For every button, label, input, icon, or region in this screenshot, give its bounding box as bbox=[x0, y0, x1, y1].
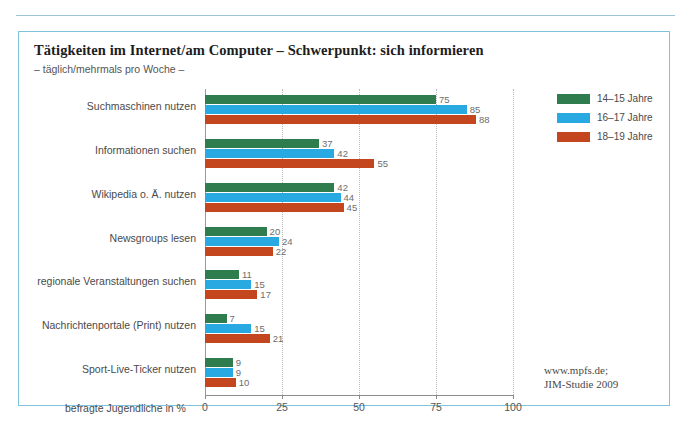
bar-group: Informationen suchen374255 bbox=[205, 139, 513, 168]
legend-label-16-17: 16–17 Jahre bbox=[597, 112, 653, 123]
category-label: Nachrichtenportale (Print) nutzen bbox=[42, 319, 196, 331]
bar-group: Suchmaschinen nutzen758588 bbox=[205, 95, 513, 124]
bar-value-label: 9 bbox=[236, 358, 241, 367]
bar bbox=[205, 280, 251, 289]
chart-legend: 14–15 Jahre 16–17 Jahre 18–19 Jahre bbox=[557, 91, 653, 148]
bar-value-label: 88 bbox=[479, 115, 490, 124]
x-tick-label-100: 100 bbox=[504, 401, 522, 413]
category-label: Newsgroups lesen bbox=[110, 232, 196, 244]
x-tick-75 bbox=[436, 395, 437, 399]
legend-label-18-19: 18–19 Jahre bbox=[597, 131, 653, 142]
source-line-2: JIM-Studie 2009 bbox=[544, 377, 618, 391]
bar-value-label: 55 bbox=[377, 159, 388, 168]
bar-group: Wikipedia o. Ä. nutzen424445 bbox=[205, 183, 513, 212]
x-tick-25 bbox=[282, 395, 283, 399]
source-note: www.mpfs.de; JIM-Studie 2009 bbox=[544, 363, 618, 391]
bar-group: Sport-Live-Ticker nutzen9910 bbox=[205, 358, 513, 387]
bar-value-label: 15 bbox=[254, 280, 265, 289]
chart-title: Tätigkeiten im Internet/am Computer – Sc… bbox=[34, 42, 484, 59]
bar-value-label: 75 bbox=[439, 95, 450, 104]
bar bbox=[205, 159, 374, 168]
bar-value-label: 45 bbox=[347, 203, 358, 212]
bar-group: Newsgroups lesen202422 bbox=[205, 227, 513, 256]
category-label: Wikipedia o. Ä. nutzen bbox=[92, 188, 196, 200]
x-tick-label-0: 0 bbox=[202, 401, 208, 413]
bar bbox=[205, 334, 270, 343]
x-tick-label-50: 50 bbox=[353, 401, 365, 413]
x-tick-100 bbox=[513, 395, 514, 399]
bar bbox=[205, 290, 257, 299]
bar bbox=[205, 95, 436, 104]
bar-value-label: 37 bbox=[322, 139, 333, 148]
bar-value-label: 10 bbox=[239, 378, 250, 387]
legend-swatch-18-19 bbox=[557, 132, 590, 142]
bar bbox=[205, 314, 227, 323]
bar-group: regionale Veranstaltungen suchen111517 bbox=[205, 270, 513, 299]
legend-label-14-15: 14–15 Jahre bbox=[597, 93, 653, 104]
x-tick-label-75: 75 bbox=[430, 401, 442, 413]
bar bbox=[205, 193, 341, 202]
x-tick-label-25: 25 bbox=[276, 401, 288, 413]
bar bbox=[205, 270, 239, 279]
top-divider-rule bbox=[16, 15, 675, 16]
bar bbox=[205, 237, 279, 246]
bar-value-label: 22 bbox=[276, 247, 287, 256]
category-label: Sport-Live-Ticker nutzen bbox=[82, 363, 196, 375]
legend-swatch-14-15 bbox=[557, 94, 590, 104]
bar-value-label: 42 bbox=[337, 183, 348, 192]
legend-item: 14–15 Jahre bbox=[557, 91, 653, 106]
bar bbox=[205, 378, 236, 387]
bar bbox=[205, 227, 267, 236]
plot-area: 0255075100Suchmaschinen nutzen758588Info… bbox=[205, 89, 513, 395]
bar-value-label: 7 bbox=[230, 314, 235, 323]
x-tick-0 bbox=[205, 395, 206, 399]
bar-value-label: 9 bbox=[236, 368, 241, 377]
legend-item: 18–19 Jahre bbox=[557, 129, 653, 144]
bar-value-label: 17 bbox=[260, 290, 271, 299]
bar-value-label: 15 bbox=[254, 324, 265, 333]
bar-value-label: 11 bbox=[242, 270, 252, 279]
bar bbox=[205, 203, 344, 212]
legend-item: 16–17 Jahre bbox=[557, 110, 653, 125]
x-tick-50 bbox=[359, 395, 360, 399]
bar bbox=[205, 149, 334, 158]
bar-value-label: 20 bbox=[270, 227, 281, 236]
bar-group: Nachrichtenportale (Print) nutzen71521 bbox=[205, 314, 513, 343]
bar-value-label: 85 bbox=[470, 105, 481, 114]
source-line-1: www.mpfs.de; bbox=[544, 363, 618, 377]
x-axis-title: befragte Jugendliche in % bbox=[65, 402, 186, 414]
bar-value-label: 24 bbox=[282, 237, 293, 246]
bar-value-label: 21 bbox=[273, 334, 284, 343]
bar bbox=[205, 247, 273, 256]
legend-swatch-16-17 bbox=[557, 113, 590, 123]
category-label: regionale Veranstaltungen suchen bbox=[37, 275, 196, 287]
bar bbox=[205, 105, 467, 114]
bar bbox=[205, 358, 233, 367]
bar bbox=[205, 368, 233, 377]
bar-value-label: 42 bbox=[337, 149, 348, 158]
bar bbox=[205, 324, 251, 333]
category-label: Suchmaschinen nutzen bbox=[87, 100, 196, 112]
chart-frame: Tätigkeiten im Internet/am Computer – Sc… bbox=[18, 31, 670, 406]
bar bbox=[205, 183, 334, 192]
gridline-100 bbox=[513, 89, 515, 395]
category-label: Informationen suchen bbox=[95, 144, 196, 156]
bar bbox=[205, 115, 476, 124]
bar bbox=[205, 139, 319, 148]
bar-value-label: 44 bbox=[344, 193, 355, 202]
chart-subtitle: – täglich/mehrmals pro Woche – bbox=[34, 63, 184, 75]
